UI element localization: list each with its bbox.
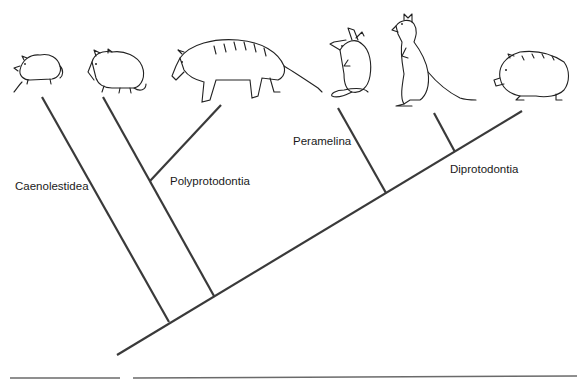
label-diprotodontia: Diprotodontia (450, 163, 518, 175)
shrew-opossum-illustration (14, 55, 63, 92)
bandicoot-illustration (330, 28, 371, 97)
thylacine-branch-line (150, 105, 221, 181)
opossum-illustration (88, 49, 146, 93)
cladogram-figure: Caenolestidea Polyprotodontia Peramelina… (0, 0, 582, 383)
thylacine-illustration (172, 40, 322, 102)
label-peramelina: Peramelina (293, 135, 351, 147)
wombat-illustration (494, 51, 569, 100)
label-polyprotodontia: Polyprotodontia (170, 175, 250, 187)
caenolestidea-branch-line (42, 97, 169, 322)
kangaroo-illustration (392, 14, 476, 106)
kangaroo-branch-line (434, 113, 455, 152)
label-caenolestidea: Caenolestidea (15, 180, 89, 192)
bottom-rule-right (133, 376, 577, 378)
polyprotodontia-branch-line (103, 97, 214, 296)
peramelina-branch-line (338, 108, 386, 193)
